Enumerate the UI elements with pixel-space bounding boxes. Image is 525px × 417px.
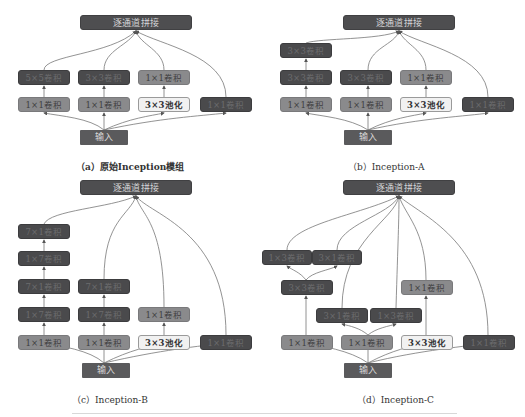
connection-wires: [0, 0, 525, 417]
conv-box: 7×1卷积: [18, 279, 70, 294]
conv-box: 1×1卷积: [401, 280, 453, 295]
conv-box: 1×1卷积: [18, 97, 70, 112]
input-box: 输入: [344, 130, 392, 145]
conv-box: 1×7卷积: [78, 307, 130, 322]
conv-box: 3×3卷积: [340, 70, 392, 85]
caption-b: （b）Inception-A: [348, 160, 425, 173]
conv-box: 3×3卷积: [78, 70, 130, 85]
conv-box: 7×1卷积: [78, 279, 130, 294]
caption-a: （a）原始Inception模组: [76, 160, 184, 173]
conv-box: 1×1卷积: [200, 335, 252, 350]
conv-box: 3×1卷积: [316, 308, 368, 323]
conv-box: 1×1卷积: [18, 335, 70, 350]
conv-box: 1×1卷积: [462, 97, 514, 112]
conv-box: 1×1卷积: [400, 70, 452, 85]
conv-box: 1×1卷积: [463, 335, 515, 350]
conv-box: 1×7卷积: [18, 251, 70, 266]
concat-box: 逐通道拼接: [80, 180, 192, 195]
caption-d: （d）Inception-C: [357, 393, 434, 406]
pool-box: 3×3池化: [138, 97, 190, 112]
input-box: 输入: [82, 363, 130, 378]
conv-box: 3×3卷积: [280, 43, 332, 58]
conv-box: 1×3卷积: [370, 308, 422, 323]
concat-box: 逐通道拼接: [343, 180, 455, 195]
conv-box: 1×1卷积: [78, 97, 130, 112]
conv-box: 3×3卷积: [280, 70, 332, 85]
conv-box: 1×1卷积: [78, 335, 130, 350]
conv-box: 1×7卷积: [18, 307, 70, 322]
input-box: 输入: [80, 130, 128, 145]
pool-box: 3×3池化: [401, 335, 453, 350]
conv-box: 1×1卷积: [138, 70, 190, 85]
conv-box: 1×1卷积: [341, 335, 393, 350]
concat-box: 逐通道拼接: [80, 15, 192, 30]
conv-box: 1×1卷积: [340, 97, 392, 112]
caption-c: （c）Inception-B: [72, 393, 148, 406]
conv-box: 1×1卷积: [280, 97, 332, 112]
conv-box: 1×1卷积: [200, 97, 252, 112]
concat-box: 逐通道拼接: [343, 15, 455, 30]
input-box: 输入: [344, 363, 392, 378]
conv-box: 1×3卷积: [262, 250, 312, 265]
conv-box: 3×1卷积: [312, 250, 362, 265]
conv-box: 5×5卷积: [18, 70, 70, 85]
conv-box: 7×1卷积: [18, 224, 70, 239]
conv-box: 3×3卷积: [281, 280, 333, 295]
conv-box: 1×1卷积: [281, 335, 333, 350]
pool-box: 3×3池化: [138, 335, 190, 350]
conv-box: 1×1卷积: [138, 307, 190, 322]
pool-box: 3×3池化: [400, 97, 452, 112]
figure-caption-cutoff: [72, 413, 457, 414]
